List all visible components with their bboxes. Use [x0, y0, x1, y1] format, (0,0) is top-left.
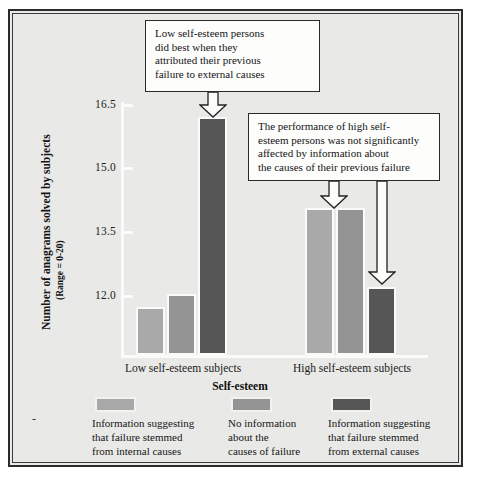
callout1-line-3: failure to external causes — [155, 68, 311, 82]
legend-swatch-external — [331, 397, 372, 412]
bar-high-none — [336, 208, 365, 355]
callout1-line-2: attributed their previous — [155, 54, 311, 68]
callout2-arrow-long-icon — [368, 181, 396, 285]
x-axis-title: Self-esteem — [170, 380, 310, 392]
y-axis-title: Number of anagrams solved by subjects — [40, 134, 52, 330]
bar-low-none — [167, 294, 196, 355]
legend-external-line-0: Information suggesting — [328, 416, 456, 430]
legend-internal-line-2: from internal causes — [92, 444, 220, 458]
callout2-line-2: affected by information about — [258, 147, 431, 161]
y-axis-line — [121, 102, 124, 357]
chart-figure: Number of anagrams solved by subjects (R… — [0, 0, 480, 484]
y-tick-2 — [121, 231, 133, 234]
callout2-line-1: esteem persons was not significantly — [258, 134, 431, 148]
callout1-line-0: Low self-esteem persons — [155, 27, 311, 41]
y-tick-label-0: 16.5 — [58, 98, 116, 110]
legend-internal-line-1: that failure stemmed — [92, 430, 220, 444]
legend-none-line-1: about the — [228, 430, 318, 444]
callout1-arrow-icon — [199, 92, 227, 118]
bar-low-internal — [136, 307, 165, 355]
x-group-label-high: High self-esteem subjects — [282, 362, 422, 374]
y-tick-label-1: 15.0 — [58, 161, 116, 173]
legend-swatch-none — [231, 397, 272, 412]
legend-label-internal: Information suggesting that failure stem… — [92, 416, 220, 459]
y-tick-label-2: 13.5 — [58, 225, 116, 237]
legend-internal-line-0: Information suggesting — [92, 416, 220, 430]
bar-low-external — [198, 117, 227, 355]
callout2-line-0: The performance of high self- — [258, 120, 431, 134]
y-tick-label-3: 12.0 — [58, 289, 116, 301]
plot-area: Number of anagrams solved by subjects (R… — [0, 0, 480, 484]
left-dash-mark: - — [32, 412, 36, 427]
callout-low-self-esteem: Low self-esteem persons did best when th… — [145, 20, 320, 92]
x-axis-line — [121, 355, 428, 358]
legend-label-external: Information suggesting that failure stem… — [328, 416, 456, 459]
legend-swatch-internal — [95, 397, 136, 412]
callout2-arrow-short-icon — [320, 181, 348, 209]
legend-none-line-0: No information — [228, 416, 318, 430]
callout1-line-1: did best when they — [155, 41, 311, 55]
legend-label-none: No information about the causes of failu… — [228, 416, 318, 459]
callout-high-self-esteem: The performance of high self- esteem per… — [248, 113, 440, 181]
y-tick-0 — [121, 104, 133, 107]
y-tick-3 — [121, 295, 133, 298]
bar-high-internal — [305, 208, 334, 355]
bar-high-external — [367, 287, 396, 355]
callout2-line-3: the causes of their previous failure — [258, 161, 431, 175]
x-group-label-low: Low self-esteem subjects — [113, 362, 253, 374]
legend-none-line-2: causes of failure — [228, 444, 318, 458]
legend-external-line-1: that failure stemmed — [328, 430, 456, 444]
y-tick-1 — [121, 167, 133, 170]
legend-external-line-2: from external causes — [328, 444, 456, 458]
